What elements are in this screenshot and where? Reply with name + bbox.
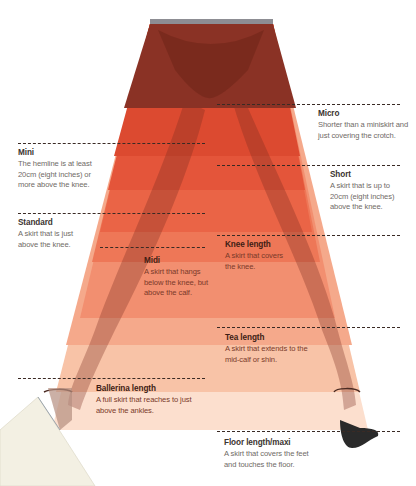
label-midi: Midi A skirt that hangs below the knee, … (144, 256, 212, 299)
skirt-length-diagram: Micro Shorter than a miniskirt and just … (0, 0, 416, 486)
label-ballerina: Ballerina length A full skirt that reach… (96, 384, 196, 416)
standard-line (18, 213, 205, 214)
tea-desc: A skirt that extends to the mid-calf or … (225, 344, 313, 365)
short-title: Short (330, 170, 410, 181)
standard-desc: A skirt that is just above the knee. (18, 229, 78, 250)
floor-title: Floor length/maxi (224, 438, 314, 449)
midi-title: Midi (144, 256, 212, 267)
short-desc: A skirt that is up to 20cm (eight inches… (330, 181, 410, 213)
mini-title: Mini (18, 148, 102, 159)
label-floor: Floor length/maxi A skirt that covers th… (224, 438, 314, 470)
mini-line (18, 143, 205, 144)
label-standard: Standard A skirt that is just above the … (18, 218, 78, 250)
knee-title: Knee length (225, 240, 295, 251)
floor-desc: A skirt that covers the feet and touches… (224, 449, 314, 470)
waistband (150, 19, 273, 24)
label-micro: Micro Shorter than a miniskirt and just … (318, 109, 414, 141)
tea-title: Tea length (225, 333, 313, 344)
floor-line (217, 431, 400, 432)
standard-title: Standard (18, 218, 78, 229)
tea-line (217, 327, 400, 328)
micro-title: Micro (318, 109, 414, 120)
mini-desc: The hemline is at least 20cm (eight inch… (18, 159, 102, 191)
knee-desc: A skirt that covers the knee. (225, 251, 295, 272)
micro-line (217, 104, 400, 105)
ballerina-title: Ballerina length (96, 384, 196, 395)
label-tea: Tea length A skirt that extends to the m… (225, 333, 313, 365)
ballerina-line (18, 378, 205, 379)
short-line (217, 165, 400, 166)
label-mini: Mini The hemline is at least 20cm (eight… (18, 148, 102, 191)
midi-desc: A skirt that hangs below the knee, but a… (144, 267, 212, 299)
knee-line (217, 235, 400, 236)
label-knee: Knee length A skirt that covers the knee… (225, 240, 295, 272)
ballerina-desc: A full skirt that reaches to just above … (96, 395, 196, 416)
label-short: Short A skirt that is up to 20cm (eight … (330, 170, 410, 213)
micro-desc: Shorter than a miniskirt and just coveri… (318, 120, 414, 141)
midi-line (100, 247, 205, 248)
